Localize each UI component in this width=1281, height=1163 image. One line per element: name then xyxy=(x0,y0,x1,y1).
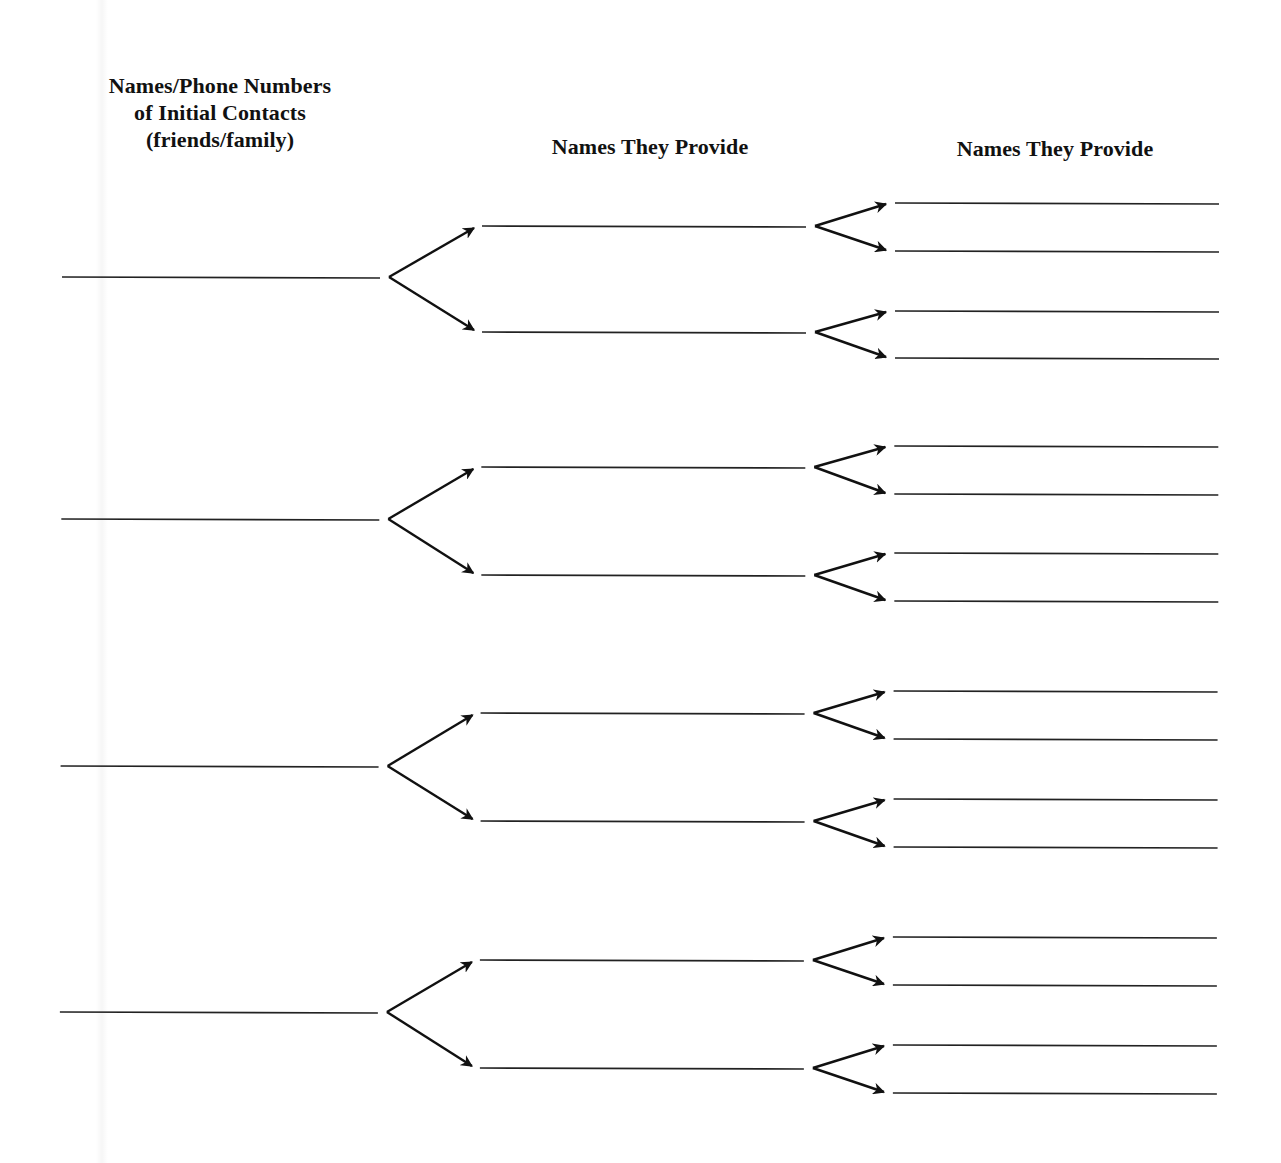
branch-arrow-icon xyxy=(814,554,885,575)
branch-arrow-icon xyxy=(388,766,473,819)
referral-name-blank[interactable] xyxy=(481,821,805,822)
second-referral-name-blank[interactable] xyxy=(894,494,1218,495)
second-referral-name-blank[interactable] xyxy=(894,739,1218,740)
referral-name-blank[interactable] xyxy=(480,960,804,961)
branch-arrow-icon xyxy=(814,800,885,821)
branch-arrow-icon xyxy=(389,228,474,277)
branch-arrow-icon xyxy=(815,204,886,226)
second-referral-name-blank[interactable] xyxy=(895,358,1219,359)
second-referral-name-blank[interactable] xyxy=(895,203,1219,204)
branch-arrow-icon xyxy=(387,1012,472,1066)
branch-arrow-icon xyxy=(813,1046,884,1068)
second-referral-name-blank[interactable] xyxy=(893,1093,1217,1094)
branch-arrow-icon xyxy=(813,1068,884,1092)
initial-contact-blank[interactable] xyxy=(61,519,379,520)
referral-name-blank[interactable] xyxy=(482,332,806,333)
branch-arrow-icon xyxy=(389,277,474,330)
referral-name-blank[interactable] xyxy=(480,1068,804,1069)
second-referral-name-blank[interactable] xyxy=(894,691,1218,692)
branch-arrow-icon xyxy=(814,692,885,713)
referral-name-blank[interactable] xyxy=(481,575,805,576)
referral-name-blank[interactable] xyxy=(481,713,805,714)
branch-arrow-icon xyxy=(814,467,885,493)
second-referral-name-blank[interactable] xyxy=(894,446,1218,447)
branch-arrow-icon xyxy=(815,332,886,357)
second-referral-name-blank[interactable] xyxy=(894,799,1218,800)
second-referral-name-blank[interactable] xyxy=(895,251,1219,252)
initial-contact-blank[interactable] xyxy=(61,766,379,767)
initial-contact-blank[interactable] xyxy=(62,277,380,278)
initial-contact-blank[interactable] xyxy=(60,1012,378,1013)
branch-arrow-icon xyxy=(387,962,472,1012)
branch-arrow-icon xyxy=(813,960,884,984)
branch-arrow-icon xyxy=(388,715,473,766)
second-referral-name-blank[interactable] xyxy=(895,311,1219,312)
branch-arrow-icon xyxy=(815,312,886,332)
branch-arrow-icon xyxy=(814,713,885,738)
second-referral-name-blank[interactable] xyxy=(893,1045,1217,1046)
branch-arrow-icon xyxy=(814,447,885,467)
second-referral-name-blank[interactable] xyxy=(894,553,1218,554)
branch-arrow-icon xyxy=(388,469,473,519)
referral-name-blank[interactable] xyxy=(482,226,806,227)
second-referral-name-blank[interactable] xyxy=(894,847,1218,848)
branch-arrow-icon xyxy=(388,519,473,573)
second-referral-name-blank[interactable] xyxy=(893,937,1217,938)
branch-arrow-icon xyxy=(814,575,885,600)
branch-arrow-icon xyxy=(815,226,886,250)
second-referral-name-blank[interactable] xyxy=(894,601,1218,602)
referral-tree-diagram xyxy=(0,0,1281,1163)
branch-arrow-icon xyxy=(813,938,884,960)
second-referral-name-blank[interactable] xyxy=(893,985,1217,986)
branch-arrow-icon xyxy=(814,821,885,846)
referral-name-blank[interactable] xyxy=(481,467,805,468)
